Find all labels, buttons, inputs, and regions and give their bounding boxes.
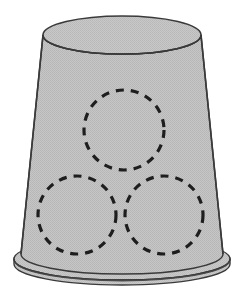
bucket-body-shape bbox=[21, 35, 223, 274]
figure-container bbox=[0, 0, 245, 304]
bucket-body bbox=[21, 35, 223, 274]
bucket-top-face bbox=[43, 16, 201, 54]
bucket-diagram bbox=[0, 0, 245, 304]
